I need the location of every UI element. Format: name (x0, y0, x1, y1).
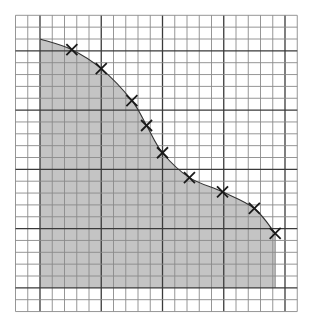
area-fill (40, 39, 275, 288)
shaded-area (40, 39, 275, 288)
area-chart (0, 0, 315, 327)
